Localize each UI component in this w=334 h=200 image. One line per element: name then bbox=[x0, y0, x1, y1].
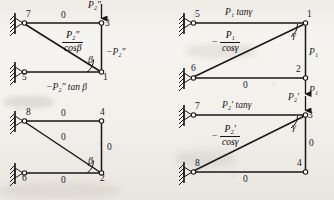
support-wall-node5-r bbox=[179, 13, 192, 36]
node-label-2-bl: 2 bbox=[100, 174, 105, 184]
node-label-2-tr: 2 bbox=[296, 65, 301, 75]
diagonal-force-fraction-tl: P₂″ cosβ bbox=[62, 31, 83, 53]
member-force-top-tr: P₁ tanγ bbox=[225, 8, 252, 18]
member-force-right-bl: 0 bbox=[107, 143, 112, 153]
load-label-P1-tr: P₁ bbox=[309, 86, 318, 96]
node-label-5-tl: 5 bbox=[22, 73, 27, 83]
fraction-numerator-tr: P₁ bbox=[220, 31, 240, 41]
node-2r-joint bbox=[303, 76, 307, 80]
member-force-right-br: 0 bbox=[309, 139, 314, 149]
node-label-4-br: 4 bbox=[297, 159, 302, 169]
member-force-right-tl: −P₂″ bbox=[106, 48, 125, 58]
member-force-bottom-tr: 0 bbox=[243, 81, 248, 91]
member-force-bottom-br: 0 bbox=[243, 175, 248, 185]
support-wall-node7 bbox=[10, 13, 23, 36]
fraction-numerator-br: P₂′ bbox=[220, 125, 240, 135]
fraction-denominator-tl: cosβ bbox=[62, 44, 83, 54]
diagonal-force-fraction-br: P₂′ cosγ bbox=[220, 125, 240, 147]
fraction-denominator-br: cosγ bbox=[220, 138, 240, 148]
node-label-8-bl: 8 bbox=[26, 108, 31, 118]
node-label-3-tl: 3 bbox=[105, 19, 110, 29]
member-force-top-tl: 0 bbox=[61, 11, 66, 21]
member-force-bottom-tl: −P₂″ tan β bbox=[46, 83, 87, 93]
node-3-joint bbox=[99, 21, 103, 25]
node-label-1-tl: 1 bbox=[103, 73, 108, 83]
node-label-7-br: 7 bbox=[195, 102, 200, 112]
member-force-top-br: P₂′ tanγ bbox=[222, 101, 251, 111]
member-8-3-diagonal-r bbox=[195, 116, 305, 171]
angle-label-beta-tl: β bbox=[88, 55, 93, 65]
angle-label-beta-bl: β bbox=[88, 156, 93, 166]
angle-label-gamma-br: γ bbox=[292, 122, 296, 132]
node-label-5-tr: 5 bbox=[195, 10, 200, 20]
angle-label-gamma-tr: γ bbox=[292, 30, 296, 40]
load-label-P2dprime-tl: P₂″ bbox=[88, 1, 101, 11]
node-label-6-bl: 6 bbox=[22, 174, 27, 184]
frame-diagram-svg bbox=[0, 0, 334, 200]
fraction-sign-tr: − bbox=[212, 37, 218, 47]
member-force-top-bl: 0 bbox=[61, 109, 66, 119]
node-label-7-tl: 7 bbox=[26, 10, 31, 20]
node-label-4-bl: 4 bbox=[100, 108, 105, 118]
support-wall-node8 bbox=[10, 111, 23, 134]
node-4-joint bbox=[99, 119, 103, 123]
node-1r-joint bbox=[303, 21, 307, 25]
load-label-P2prime-br: P₂′ bbox=[288, 93, 299, 103]
node-label-8-br: 8 bbox=[195, 159, 200, 169]
diagonal-force-fraction-tr: P₁ cosγ bbox=[220, 31, 240, 53]
node-label-6-tr: 6 bbox=[191, 64, 196, 74]
node-label-3-br: 3 bbox=[308, 111, 313, 121]
figure-sheet: 7 3 5 1 0 −P₂″ −P₂″ tan β β P₂″ P₂″ cosβ… bbox=[0, 0, 334, 200]
fraction-sign-br: − bbox=[212, 131, 218, 141]
member-force-diagonal-bl: 0 bbox=[61, 133, 66, 143]
fraction-denominator-tr: cosγ bbox=[220, 44, 240, 54]
support-wall-node7-r bbox=[179, 105, 192, 128]
node-label-1-tr: 1 bbox=[307, 10, 312, 20]
member-6-1-diagonal-r bbox=[195, 24, 305, 77]
member-force-right-tr: P₁ bbox=[309, 48, 318, 58]
fraction-numerator-tl: P₂″ bbox=[62, 31, 83, 41]
member-force-bottom-bl: 0 bbox=[61, 176, 66, 186]
support-wall-node8-r bbox=[179, 162, 192, 185]
node-4r-joint bbox=[303, 170, 307, 174]
